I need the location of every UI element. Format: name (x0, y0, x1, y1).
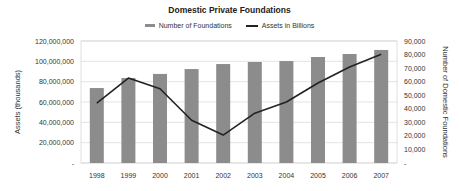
bar (374, 50, 388, 163)
y-tick-label: 80,000,000 (39, 78, 74, 85)
y2-tick-label: 10,000 (404, 146, 426, 153)
x-tick-label: 2000 (152, 172, 168, 179)
x-tick-label: 2004 (279, 172, 295, 179)
y2-tick-label: 20,000 (404, 132, 426, 139)
y2-axis-title: Number of Domestic Foundations (441, 46, 450, 158)
x-tick-label: 2002 (215, 172, 231, 179)
x-tick-label: 2001 (184, 172, 200, 179)
x-tick-label: 2005 (310, 172, 326, 179)
y2-tick-label: 50,000 (404, 92, 426, 99)
y-axis-title: Assets (thousands) (13, 69, 22, 134)
x-tick-label: 2007 (373, 172, 389, 179)
y-tick-label: 20,000,000 (39, 139, 74, 146)
x-tick-label: 1998 (89, 172, 105, 179)
x-tick-label: 2006 (342, 172, 358, 179)
y-tick-label: 60,000,000 (39, 99, 74, 106)
y-tick-label: 100,000,000 (35, 58, 74, 65)
y2-tick-label: 90,000 (404, 38, 426, 45)
chart-plot: -20,000,00040,000,00060,000,00080,000,00… (0, 0, 459, 191)
bar (216, 64, 230, 163)
bar (121, 78, 135, 163)
y2-tick-label: - (404, 160, 407, 167)
y2-tick-label: 60,000 (404, 78, 426, 85)
bar (311, 57, 325, 163)
y2-tick-label: 30,000 (404, 119, 426, 126)
y-tick-label: - (72, 160, 75, 167)
assets-line (97, 54, 381, 135)
bar (279, 61, 293, 163)
y2-tick-label: 80,000 (404, 51, 426, 58)
x-tick-label: 2003 (247, 172, 263, 179)
y2-tick-label: 40,000 (404, 105, 426, 112)
y-tick-label: 40,000,000 (39, 119, 74, 126)
y2-tick-label: 70,000 (404, 65, 426, 72)
y-tick-label: 120,000,000 (35, 38, 74, 45)
x-tick-label: 1999 (121, 172, 137, 179)
